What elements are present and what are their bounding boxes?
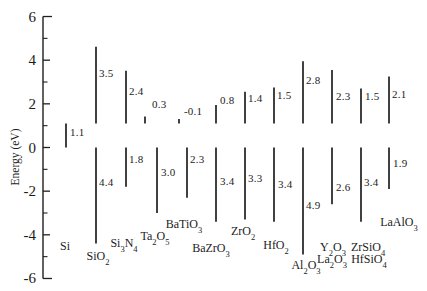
vb-offset-value-HfO2: 3.4 xyxy=(278,179,292,190)
vb-offset-value-Al2O3: 4.9 xyxy=(306,200,320,211)
y-axis-tick-label: -6 xyxy=(0,271,36,286)
vb-offset-value-Si3N4: 1.8 xyxy=(129,154,143,165)
material-label-HfO2: HfO2 xyxy=(263,239,289,251)
cb-offset-value-Al2O3: 2.8 xyxy=(306,75,320,86)
vb-offset-value-BaZrO3: 3.4 xyxy=(220,176,234,187)
vb-offset-value-Y2O3: 2.6 xyxy=(336,182,350,193)
vb-offset-value-SiO2: 4.4 xyxy=(99,177,113,188)
vb-offset-value-ZrO2: 3.3 xyxy=(248,173,262,184)
y-axis-tick-label: 2 xyxy=(0,96,36,111)
material-label-Si: Si xyxy=(60,240,70,252)
cb-offset-value-Si3N4: 2.4 xyxy=(129,86,143,97)
y-axis-tick-label: 0 xyxy=(0,140,36,155)
cb-offset-value-ZrSiO4: 1.5 xyxy=(365,91,379,102)
y-axis-tick-label: 4 xyxy=(0,53,36,68)
cb-offset-value-ZrO2: 1.4 xyxy=(248,93,262,104)
cb-offset-value-HfO2: 1.5 xyxy=(277,90,291,101)
cb-offset-value-BaTiO3: -0.1 xyxy=(184,106,202,117)
vb-offset-value-Ta2O5: 3.0 xyxy=(161,167,175,178)
cb-offset-value-Y2O3: 2.3 xyxy=(336,91,350,102)
cb-offset-value-SiO2: 3.5 xyxy=(99,68,113,79)
material-label-ZrO2: ZrO2 xyxy=(231,225,255,237)
material-label-Si3N4: Si3N4 xyxy=(110,237,137,249)
material-label-BaZrO3: BaZrO3 xyxy=(192,242,230,254)
vb-offset-value-BaTiO3: 2.3 xyxy=(190,154,204,165)
y-axis-tick-label: -4 xyxy=(0,227,36,242)
cb-offset-value-LaAlO3: 2.1 xyxy=(392,89,406,100)
material-label-BaTiO3: BaTiO3 xyxy=(166,218,203,230)
cb-offset-value-Ta2O5: 0.3 xyxy=(152,99,166,110)
material-label-SiO2: SiO2 xyxy=(87,250,110,262)
y-axis-title: Energy (eV) xyxy=(10,129,22,186)
material-label-Ta2O5: Ta2O5 xyxy=(141,230,170,242)
vb-offset-value-ZrSiO4: 3.4 xyxy=(364,177,378,188)
cb-offset-value-Si: 1.1 xyxy=(70,127,84,138)
material-label-LaAlO3: LaAlO3 xyxy=(380,216,418,228)
cb-offset-value-BaZrO3: 0.8 xyxy=(220,95,234,106)
band-offset-chart: Energy (eV) 6420-2-4-61.1Si3.54.4SiO22.4… xyxy=(0,0,427,291)
y-axis-tick-label: 6 xyxy=(0,9,36,24)
material-label-HfSiO4: HfSiO4 xyxy=(351,253,387,265)
vb-offset-value-LaAlO3: 1.9 xyxy=(393,158,407,169)
material-label-La2O3: La2O3 xyxy=(317,253,347,265)
y-axis-tick-label: -2 xyxy=(0,184,36,199)
